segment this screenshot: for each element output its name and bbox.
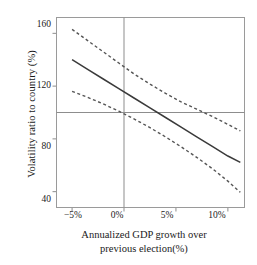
- data-series: [72, 29, 240, 192]
- series-lower-95-confidence-band: [72, 91, 240, 192]
- reference-lines: [57, 18, 245, 208]
- volatility-vs-gdp-growth-chart: Volatility ratio to country (%) 160 120 …: [0, 0, 257, 265]
- series-fitted-volatility-ratio: [72, 60, 240, 163]
- plot-area: [0, 0, 257, 265]
- series-upper-95-confidence-band: [72, 29, 240, 131]
